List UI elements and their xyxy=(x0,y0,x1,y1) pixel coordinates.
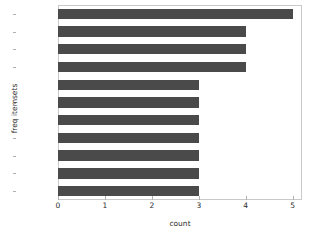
y-axis-tick-mark xyxy=(13,191,16,192)
x-axis-tick-mark xyxy=(246,196,247,200)
y-axis-tick-mark xyxy=(13,120,16,121)
bar-row xyxy=(58,147,302,165)
y-axis-tick-mark xyxy=(13,156,16,157)
bar xyxy=(58,62,246,72)
x-axis-tick-mark xyxy=(293,196,294,200)
bar-row xyxy=(58,94,302,112)
bar xyxy=(58,44,246,54)
x-axis-tick-mark xyxy=(105,196,106,200)
y-axis-tick-mark xyxy=(13,49,16,50)
y-axis-tick-mark xyxy=(13,85,16,86)
y-axis-tick-mark xyxy=(13,138,16,139)
bar-row xyxy=(58,182,302,200)
x-axis-tick-mark xyxy=(58,196,59,200)
bar-row xyxy=(58,5,302,23)
bar xyxy=(58,186,199,196)
y-axis-tick-mark xyxy=(13,14,16,15)
bar-row xyxy=(58,129,302,147)
x-axis-tick-label: 0 xyxy=(48,202,68,210)
y-axis-tick-mark xyxy=(13,173,16,174)
bar-chart-figure: freq itemsets (A,)(D,)(F,)(F, A)(E,)(E, … xyxy=(0,0,319,241)
bar-row xyxy=(58,23,302,41)
y-axis-tick-mark xyxy=(13,67,16,68)
x-axis-tick-label: 5 xyxy=(283,202,303,210)
bar-row xyxy=(58,111,302,129)
bar-row xyxy=(58,58,302,76)
bar xyxy=(58,97,199,107)
x-axis-tick-label: 4 xyxy=(236,202,256,210)
y-axis-tick-mark xyxy=(13,32,16,33)
x-axis-tick-mark xyxy=(152,196,153,200)
bar-row xyxy=(58,40,302,58)
x-axis-tick-mark xyxy=(199,196,200,200)
x-axis-label: count xyxy=(58,219,302,228)
bar-row xyxy=(58,165,302,183)
bar-row xyxy=(58,76,302,94)
x-axis-tick-label: 1 xyxy=(95,202,115,210)
x-axis-tick-label: 3 xyxy=(189,202,209,210)
bar xyxy=(58,80,199,90)
y-axis-tick-mark xyxy=(13,103,16,104)
bar xyxy=(58,9,293,19)
bar xyxy=(58,26,246,36)
bar xyxy=(58,168,199,178)
y-axis-label: freq itemsets xyxy=(10,64,19,154)
x-axis-tick-label: 2 xyxy=(142,202,162,210)
bar xyxy=(58,115,199,125)
bar xyxy=(58,150,199,160)
bar xyxy=(58,133,199,143)
